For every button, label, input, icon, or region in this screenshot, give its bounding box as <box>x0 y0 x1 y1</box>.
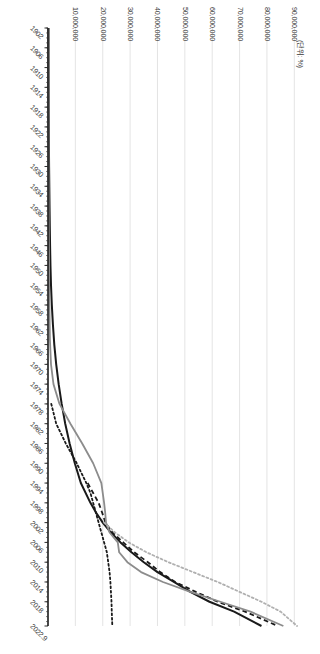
gridlines <box>75 28 294 626</box>
chart-plot-area <box>0 0 320 654</box>
y-axis-tick-label: 50,000,000 <box>181 0 190 41</box>
y-axis-tick-label: 70,000,000 <box>236 0 245 41</box>
y-axis-tick-label: 10,000,000 <box>71 0 80 41</box>
y-axis-tick-label: 40,000,000 <box>153 0 162 41</box>
y-axis-tick-label: 80,000,000 <box>263 0 272 41</box>
chart-figure: (단위: %) 10,000,00020,000,00030,000,00040… <box>0 0 320 654</box>
series-layer <box>48 28 297 626</box>
y-axis-tick-label: 90,000,000 <box>290 0 299 41</box>
y-axis-tick-label: 20,000,000 <box>99 0 108 41</box>
x-axis-line <box>45 28 49 626</box>
series-line-series-5 <box>104 523 297 626</box>
series-line-series-4 <box>48 28 283 626</box>
series-line-series-1 <box>49 28 262 626</box>
y-axis-tick-label: 30,000,000 <box>126 0 135 41</box>
y-axis-tick-label: 60,000,000 <box>208 0 217 41</box>
series-line-series-2 <box>88 483 278 626</box>
